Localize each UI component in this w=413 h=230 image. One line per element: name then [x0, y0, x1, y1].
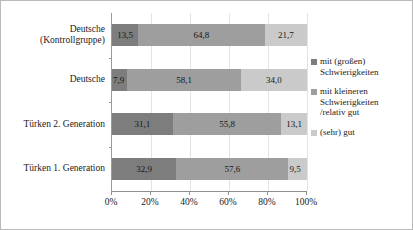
y-axis-tick — [109, 58, 112, 59]
x-axis-tick-label: 100% — [286, 197, 326, 207]
category-axis: Deutsche (Kontrollgruppe)DeutscheTürken … — [1, 13, 109, 191]
legend-label: mit (großen) Schwierigkeiten — [320, 56, 378, 77]
bar-segment[interactable]: 9,5 — [288, 158, 307, 180]
bar-segment[interactable]: 64,8 — [138, 24, 264, 46]
bar-segment[interactable]: 57,6 — [176, 158, 288, 180]
y-axis-tick — [109, 147, 112, 148]
bar-segment[interactable]: 31,1 — [112, 113, 173, 135]
bar-row[interactable]: 31,155,813,1 — [112, 113, 307, 135]
legend-item[interactable]: mit (großen) Schwierigkeiten — [311, 56, 411, 77]
legend-swatch-icon — [311, 130, 317, 136]
legend-item[interactable]: mit kleineren Schwierigkeiten /relativ g… — [311, 86, 411, 118]
x-axis-tick — [189, 191, 190, 195]
gridline — [307, 13, 308, 191]
legend-label: mit kleineren Schwierigkeiten /relativ g… — [320, 86, 378, 118]
x-axis-tick — [111, 191, 112, 195]
chart-legend: mit (großen) Schwierigkeitenmit kleinere… — [311, 56, 411, 146]
legend-item[interactable]: (sehr) gut — [311, 127, 411, 138]
bar-segment[interactable]: 32,9 — [112, 158, 176, 180]
category-axis-label: Türken 2. Generation — [1, 119, 105, 130]
x-axis-line — [111, 191, 307, 192]
bar-segment[interactable]: 55,8 — [173, 113, 282, 135]
bar-segment[interactable]: 21,7 — [265, 24, 307, 46]
bar-segment[interactable]: 7,9 — [112, 69, 127, 91]
legend-swatch-icon — [311, 89, 317, 95]
bar-segment[interactable]: 58,1 — [127, 69, 240, 91]
bar-row[interactable]: 13,564,821,7 — [112, 24, 307, 46]
x-axis-tick-label: 0% — [91, 197, 131, 207]
x-axis-tick-label: 40% — [169, 197, 209, 207]
bar-segment[interactable]: 13,1 — [281, 113, 307, 135]
x-axis-tick — [150, 191, 151, 195]
x-axis-tick-label: 20% — [130, 197, 170, 207]
plot-area: 13,564,821,77,958,134,031,155,813,132,95… — [111, 13, 307, 191]
category-axis-label: Türken 1. Generation — [1, 163, 105, 174]
bar-row[interactable]: 32,957,69,5 — [112, 158, 307, 180]
bar-segment[interactable]: 34,0 — [241, 69, 307, 91]
bar-row[interactable]: 7,958,134,0 — [112, 69, 307, 91]
category-axis-label: Deutsche — [1, 74, 105, 85]
x-axis-tick — [267, 191, 268, 195]
bar-segment[interactable]: 13,5 — [112, 24, 138, 46]
chart-frame: Deutsche (Kontrollgruppe)DeutscheTürken … — [0, 0, 413, 230]
y-axis-tick — [109, 102, 112, 103]
category-axis-label: Deutsche (Kontrollgruppe) — [1, 24, 105, 46]
x-axis-tick — [306, 191, 307, 195]
x-axis-tick-label: 60% — [208, 197, 248, 207]
legend-swatch-icon — [311, 59, 317, 65]
x-axis-tick-label: 80% — [247, 197, 287, 207]
legend-label: (sehr) gut — [320, 127, 355, 138]
x-axis-tick — [228, 191, 229, 195]
